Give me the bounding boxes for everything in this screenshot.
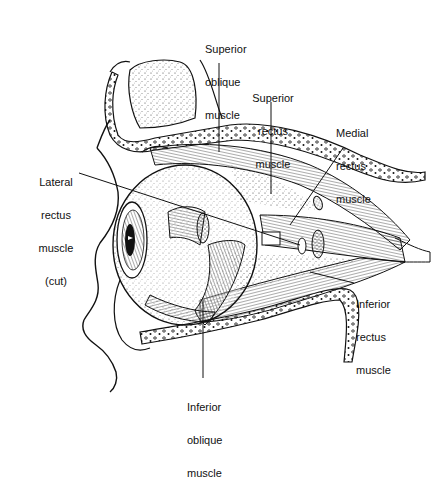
label-inferior-rectus-muscle: Inferior rectus muscle — [356, 277, 391, 398]
label-superior-rectus-muscle: Superior rectus muscle — [250, 71, 296, 192]
label-superior-oblique-muscle: Superior oblique muscle — [205, 22, 247, 143]
label-inferior-oblique-muscle: Inferior oblique muscle — [187, 380, 222, 481]
label-lateral-rectus-muscle-cut: Lateral rectus muscle (cut) — [32, 155, 80, 309]
eyeball — [113, 165, 257, 325]
pupil — [125, 224, 135, 256]
label-medial-rectus-muscle: Medial rectus muscle — [336, 106, 371, 227]
